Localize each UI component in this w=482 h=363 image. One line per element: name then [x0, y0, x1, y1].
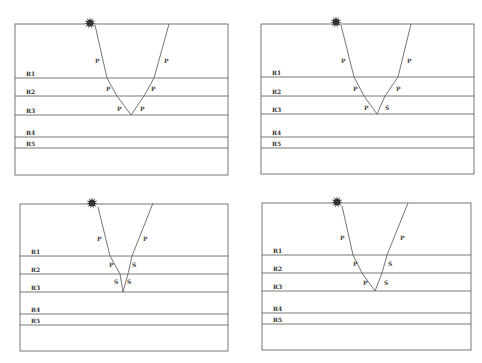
wave-label-s: S [132, 261, 136, 268]
layer-label-r1: R1 [272, 69, 281, 76]
wave-label-p: P [340, 234, 345, 241]
layer-label-r5: R5 [31, 317, 40, 324]
wave-label-p: P [164, 57, 169, 64]
wave-label-p: P [400, 234, 405, 241]
layer-label-r3: R3 [26, 107, 35, 114]
wave-label-s: S [114, 278, 118, 285]
source-core [333, 19, 339, 25]
wave-label-p: P [109, 261, 114, 268]
wave-label-p: P [95, 57, 100, 64]
wave-label-s: S [127, 278, 131, 285]
layer-label-r3: R3 [31, 284, 40, 291]
layer-label-r1: R1 [31, 248, 40, 255]
layer-label-r4: R4 [26, 129, 35, 136]
wave-label-p: P [407, 57, 412, 64]
seismic-ray-diagram: R1R2R3R4R5PPPPPPR1R2R3R4R5PPPSPPR1R2R3R4… [0, 0, 482, 363]
wave-label-p: P [341, 57, 346, 64]
layer-label-r5: R5 [272, 140, 281, 147]
layer-label-r5: R5 [26, 140, 35, 147]
layer-label-r4: R4 [31, 306, 40, 313]
wave-label-p: P [143, 235, 148, 242]
panel-bottom-right: R1R2R3R4R5PPPSSP [262, 196, 471, 350]
wave-label-p: P [364, 104, 369, 111]
ray-path [98, 203, 153, 292]
ray-path [95, 24, 169, 115]
wave-label-s: S [384, 279, 388, 286]
layer-label-r5: R5 [273, 316, 282, 323]
wave-label-p: P [353, 260, 358, 267]
panel-frame [262, 203, 471, 350]
wave-label-p: P [353, 85, 358, 92]
source-core [87, 20, 93, 26]
panel-frame [261, 24, 474, 174]
layer-label-r2: R2 [273, 265, 282, 272]
panel-top-right: R1R2R3R4R5PPPSPP [261, 16, 474, 174]
layer-label-r3: R3 [272, 106, 281, 113]
source-core [334, 199, 340, 205]
layer-label-r2: R2 [31, 266, 40, 273]
layer-label-r4: R4 [273, 305, 282, 312]
panel-frame [15, 24, 228, 175]
panel-frame [20, 204, 228, 351]
wave-label-s: S [385, 104, 389, 111]
wave-label-s: S [388, 260, 392, 267]
layer-label-r2: R2 [26, 88, 35, 95]
wave-label-p: P [97, 235, 102, 242]
panel-bottom-left: R1R2R3R4R5PPSSSP [20, 197, 228, 351]
wave-label-p: P [363, 279, 368, 286]
layer-label-r1: R1 [26, 70, 35, 77]
ray-path [342, 203, 408, 291]
panel-top-left: R1R2R3R4R5PPPPPP [15, 17, 228, 175]
wave-label-p: P [151, 85, 156, 92]
layer-label-r1: R1 [273, 247, 282, 254]
layer-label-r4: R4 [272, 129, 281, 136]
layer-label-r2: R2 [272, 88, 281, 95]
ray-path [341, 24, 411, 114]
wave-label-p: P [106, 85, 111, 92]
layer-label-r3: R3 [273, 283, 282, 290]
wave-label-p: P [396, 85, 401, 92]
source-core [89, 200, 95, 206]
wave-label-p: P [140, 105, 145, 112]
wave-label-p: P [117, 105, 122, 112]
